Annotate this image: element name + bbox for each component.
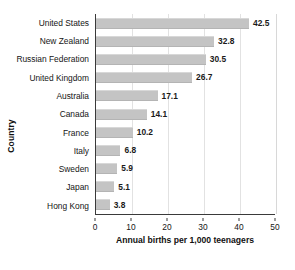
x-axis-tick-labels: 01020304050 [95,218,275,231]
bar[interactable] [96,145,120,156]
gridline [276,14,277,214]
bar-row[interactable]: 6.8 [96,141,275,159]
category-label-row: Russian Federation [14,51,92,69]
bar-value-label: 42.5 [253,19,269,27]
bar-row[interactable]: 14.1 [96,105,275,123]
bar[interactable] [96,90,158,101]
bar-value-label: 30.5 [210,55,226,63]
bar[interactable] [96,109,147,120]
bar-row[interactable]: 32.8 [96,32,275,50]
bar-row[interactable]: 10.2 [96,123,275,141]
x-tick-label: 10 [126,223,135,231]
bar-value-label: 10.2 [137,128,153,136]
x-tick-label: 30 [198,223,207,231]
category-label-row: United States [14,14,92,32]
x-tick-mark [275,218,276,221]
bar-value-label: 5.9 [121,164,133,172]
category-label: Australia [56,92,92,100]
bar-value-label: 14.1 [151,110,167,118]
bar[interactable] [96,163,117,174]
bar[interactable] [96,18,249,29]
x-tick-mark [167,218,168,221]
bar[interactable] [96,54,206,65]
category-label-row: United Kingdom [14,69,92,87]
plot-area: 42.532.830.526.717.114.110.26.85.95.13.8 [95,14,275,215]
category-label-row: Canada [14,105,92,123]
bar-row[interactable]: 17.1 [96,87,275,105]
category-label: Russian Federation [16,55,92,63]
x-tick-mark [131,218,132,221]
category-label: Sweden [59,165,92,173]
bar-chart-figure: Country United StatesNew ZealandRussian … [0,0,295,270]
category-label: United Kingdom [29,74,92,82]
bar[interactable] [96,36,214,47]
x-tick-label: 0 [93,223,98,231]
category-label: New Zealand [40,37,92,45]
x-tick-label: 50 [270,223,279,231]
bar[interactable] [96,199,110,210]
bar-row[interactable]: 5.1 [96,178,275,196]
category-label: France [63,129,92,137]
category-label-row: New Zealand [14,32,92,50]
bar-row[interactable]: 3.8 [96,196,275,214]
bar-row[interactable]: 42.5 [96,14,275,32]
x-tick-mark [203,218,204,221]
bars-layer: 42.532.830.526.717.114.110.26.85.95.13.8 [96,14,275,214]
category-label-row: Japan [14,178,92,196]
bar-row[interactable]: 5.9 [96,160,275,178]
x-axis-title: Annual births per 1,000 teenagers [95,236,275,245]
bar-value-label: 17.1 [162,92,178,100]
category-label-row: Hong Kong [14,197,92,215]
category-label: Canada [60,110,92,118]
x-tick-mark [239,218,240,221]
bar-row[interactable]: 30.5 [96,50,275,68]
x-tick-label: 40 [234,223,243,231]
bar[interactable] [96,127,133,138]
category-axis-labels: United StatesNew ZealandRussian Federati… [14,14,92,215]
bar-row[interactable]: 26.7 [96,69,275,87]
category-label-row: Italy [14,142,92,160]
bar-value-label: 3.8 [114,201,126,209]
x-tick-label: 20 [162,223,171,231]
bar-value-label: 5.1 [118,183,130,191]
category-label-row: France [14,124,92,142]
category-label: Italy [74,147,92,155]
category-label-row: Australia [14,87,92,105]
category-label: Hong Kong [47,202,92,210]
bar-value-label: 6.8 [124,146,136,154]
category-label: Japan [66,183,92,191]
category-label: United States [39,19,92,27]
bar-value-label: 26.7 [196,73,212,81]
bar[interactable] [96,72,192,83]
bar-value-label: 32.8 [218,37,234,45]
category-label-row: Sweden [14,160,92,178]
x-tick-mark [95,218,96,221]
bar[interactable] [96,181,114,192]
